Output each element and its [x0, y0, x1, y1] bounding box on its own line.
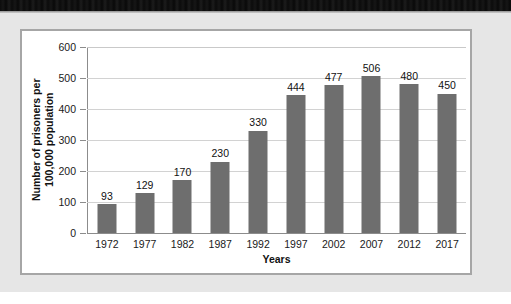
x-tick-label-2002: 2002 [322, 239, 345, 250]
bar-value-label-2017: 450 [438, 80, 456, 91]
bar-value-label-1977: 129 [136, 180, 154, 191]
y-tick-100 [80, 202, 86, 203]
x-tick-label-2012: 2012 [398, 239, 421, 250]
bar-group-1972[interactable]: 931972 [88, 47, 126, 233]
chart-figure: Number of prisoners per 100,000 populati… [20, 29, 472, 275]
bar-2012[interactable] [400, 84, 419, 233]
paper-bottom-margin [0, 292, 511, 304]
x-tick-label-1982: 1982 [171, 239, 194, 250]
bar-2017[interactable] [438, 94, 457, 234]
bar-value-label-2007: 506 [363, 63, 381, 74]
y-tick-label-500: 500 [58, 73, 76, 84]
y-tick-600 [80, 47, 86, 48]
bar-group-2017[interactable]: 4502017 [428, 47, 466, 233]
bar-group-1987[interactable]: 2301987 [201, 47, 239, 233]
y-tick-300 [80, 140, 86, 141]
bar-group-2012[interactable]: 4802012 [390, 47, 428, 233]
bar-group-1982[interactable]: 1701982 [164, 47, 202, 233]
bar-series: 9319721291977170198223019873301992444199… [88, 47, 466, 233]
x-tick-label-1977: 1977 [133, 239, 156, 250]
y-axis-title: Number of prisoners per 100,000 populati… [30, 47, 56, 233]
bar-2002[interactable] [324, 85, 343, 233]
page-canvas: Number of prisoners per 100,000 populati… [0, 0, 511, 304]
y-tick-0 [80, 233, 86, 234]
x-tick-label-1987: 1987 [209, 239, 232, 250]
x-tick-label-1972: 1972 [95, 239, 118, 250]
plot-area: 0100200300400500600 93197212919771701982… [87, 47, 466, 233]
y-tick-label-200: 200 [58, 166, 76, 177]
bar-group-1992[interactable]: 3301992 [239, 47, 277, 233]
bar-1982[interactable] [173, 180, 192, 233]
x-tick-label-1997: 1997 [284, 239, 307, 250]
bar-1987[interactable] [211, 162, 230, 233]
bar-group-1997[interactable]: 4441997 [277, 47, 315, 233]
y-tick-label-0: 0 [70, 228, 76, 239]
bar-1977[interactable] [135, 193, 154, 233]
bar-value-label-1987: 230 [212, 148, 230, 159]
bar-value-label-2002: 477 [325, 72, 343, 83]
bar-group-1977[interactable]: 1291977 [126, 47, 164, 233]
y-axis-title-line1: Number of prisoners per [30, 79, 42, 202]
y-axis-title-line2: 100,000 population [43, 93, 55, 188]
x-axis-title: Years [87, 253, 466, 265]
clipped-header-strip [0, 0, 511, 11]
bar-value-label-1982: 170 [174, 167, 192, 178]
bar-value-label-1997: 444 [287, 82, 305, 93]
bar-value-label-1992: 330 [249, 117, 267, 128]
y-tick-200 [80, 171, 86, 172]
bar-group-2007[interactable]: 5062007 [353, 47, 391, 233]
y-tick-label-600: 600 [58, 42, 76, 53]
y-tick-label-100: 100 [58, 197, 76, 208]
x-tick-label-1992: 1992 [246, 239, 269, 250]
bar-1972[interactable] [97, 204, 116, 233]
y-tick-label-400: 400 [58, 104, 76, 115]
y-tick-400 [80, 109, 86, 110]
bar-1997[interactable] [286, 95, 305, 233]
bar-value-label-1972: 93 [101, 191, 113, 202]
x-tick-label-2017: 2017 [435, 239, 458, 250]
y-tick-label-300: 300 [58, 135, 76, 146]
bar-value-label-2012: 480 [401, 71, 419, 82]
axis-baseline [87, 233, 466, 234]
bar-1992[interactable] [249, 131, 268, 233]
x-tick-label-2007: 2007 [360, 239, 383, 250]
y-tick-500 [80, 78, 86, 79]
bar-group-2002[interactable]: 4772002 [315, 47, 353, 233]
bar-2007[interactable] [362, 76, 381, 233]
